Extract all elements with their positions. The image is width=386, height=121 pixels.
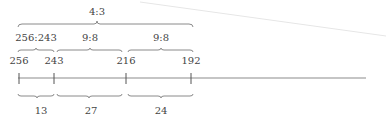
brace-ratio-256-243: 256:243: [15, 32, 57, 52]
brace-ratio-9-8-first: 9:8: [57, 32, 122, 52]
brace-bottom-1: [18, 94, 54, 98]
brace-middle-3: [128, 48, 193, 52]
brace-diff-27: 27: [57, 94, 122, 116]
ratio-label-9-8-a: 9:8: [82, 32, 98, 43]
point-label-216: 216: [116, 55, 135, 66]
brace-ratio-9-8-second: 9:8: [128, 32, 193, 52]
point-label-243: 243: [44, 55, 63, 66]
brace-diff-13: 13: [18, 94, 54, 116]
diff-label-27: 27: [85, 105, 98, 116]
diagram-canvas: 4:3 256:243 9:8 9:8 256 243 216 192 13 2…: [0, 0, 386, 121]
brace-middle-1: [18, 48, 54, 52]
brace-middle-2: [57, 48, 122, 52]
brace-ratio-4-3: 4:3: [18, 6, 193, 27]
background-artifact-line: [140, 2, 386, 36]
ratio-label-256-243: 256:243: [15, 32, 57, 43]
diff-label-13: 13: [35, 105, 48, 116]
ratio-label-4-3: 4:3: [89, 6, 105, 17]
brace-bottom-3: [128, 94, 193, 98]
point-label-256: 256: [9, 55, 28, 66]
diff-label-24: 24: [155, 105, 168, 116]
brace-diff-24: 24: [128, 94, 193, 116]
ratio-label-9-8-b: 9:8: [153, 32, 169, 43]
point-label-192: 192: [181, 55, 200, 66]
brace-top: [18, 21, 193, 27]
brace-bottom-2: [57, 94, 122, 98]
